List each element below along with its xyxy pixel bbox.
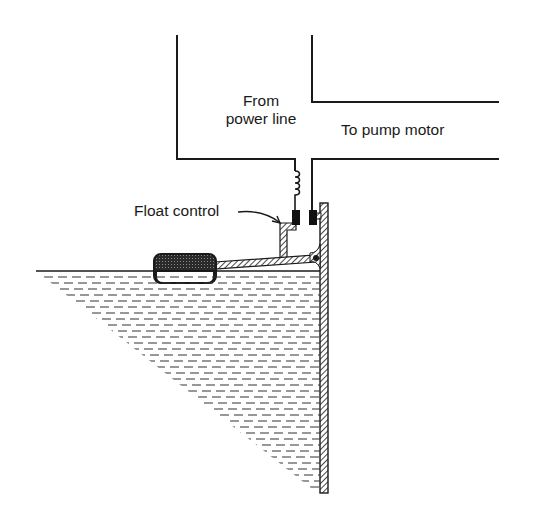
float-control-label: Float control [134,202,219,220]
float-control-arm [215,213,321,269]
tank-wall [320,203,328,493]
to-pump-motor-label: To pump motor [341,121,444,139]
float-control-leader-arrow [238,211,280,223]
water [30,277,320,487]
float-control-diagram [0,0,533,511]
from-power-line-label: From power line [216,92,306,128]
contacts [292,210,317,225]
coil-spring-icon [295,171,300,210]
from-power-line-line2: power line [216,110,306,128]
from-power-line-line1: From [216,92,306,110]
